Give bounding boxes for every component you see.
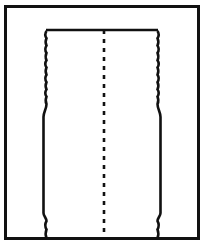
figure-canvas [0,0,205,246]
technical-drawing-svg [0,0,205,246]
figure-background [0,0,205,246]
